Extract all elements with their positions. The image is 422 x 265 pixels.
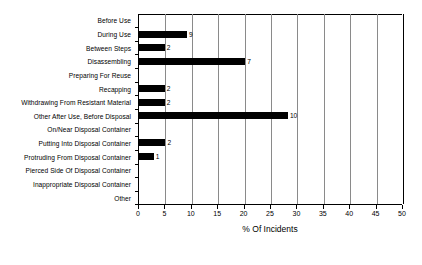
- category-label: Pierced Side Of Disposal Container: [26, 167, 131, 174]
- bar-row: 1: [139, 150, 402, 164]
- bar-value-label: 10: [290, 112, 297, 119]
- bar-row: 2: [139, 95, 402, 109]
- category-label: Withdrawing From Resistant Material: [21, 99, 131, 106]
- category-row: Inappropriate Disposal Container: [0, 178, 135, 192]
- bar-row: [139, 68, 402, 82]
- category-row: On/Near Disposal Container: [0, 123, 135, 137]
- x-tick-label: 45: [372, 210, 380, 218]
- x-tick-label: 0: [136, 210, 140, 218]
- bar: [139, 139, 165, 146]
- category-row: Recapping: [0, 82, 135, 96]
- category-label: Before Use: [98, 17, 132, 24]
- bar: [139, 31, 187, 38]
- category-row: Protruding From Disposal Container: [0, 150, 135, 164]
- bar-row: 9: [139, 28, 402, 42]
- category-label: Recapping: [99, 86, 131, 93]
- category-label: Other: [114, 195, 131, 202]
- x-tick: [376, 205, 377, 209]
- x-tick-label: 35: [319, 210, 327, 218]
- x-tick: [217, 205, 218, 209]
- x-tick: [402, 205, 403, 209]
- bar-value-label: 7: [247, 58, 251, 65]
- bar-row: 2: [139, 136, 402, 150]
- bar-row: [139, 123, 402, 137]
- bar-value-label: 2: [167, 139, 171, 146]
- bar-value-label: 1: [156, 153, 160, 160]
- bar-row: 2: [139, 41, 402, 55]
- category-label: Protruding From Disposal Container: [24, 154, 131, 161]
- x-tick: [349, 205, 350, 209]
- x-tick-label: 10: [187, 210, 195, 218]
- plot-area: 9 2 7 2 2 10 2 1: [138, 14, 402, 205]
- x-tick: [270, 205, 271, 209]
- x-tick-label: 25: [266, 210, 274, 218]
- x-tick: [323, 205, 324, 209]
- x-tick-label: 15: [213, 210, 221, 218]
- x-tick: [244, 205, 245, 209]
- category-label: During Use: [98, 31, 131, 38]
- bar-row: 10: [139, 109, 402, 123]
- bar-value-label: 2: [167, 44, 171, 51]
- category-row: Between Steps: [0, 41, 135, 55]
- category-row: Preparing For Reuse: [0, 69, 135, 83]
- bar: [139, 58, 245, 65]
- category-row: Other: [0, 191, 135, 205]
- bar-value-label: 2: [167, 85, 171, 92]
- category-label: Preparing For Reuse: [69, 72, 131, 79]
- category-label: Other After Use, Before Disposal: [34, 113, 131, 120]
- bar: [139, 112, 288, 119]
- gridline: [403, 14, 404, 204]
- x-tick-label: 20: [240, 210, 248, 218]
- category-row: Withdrawing From Resistant Material: [0, 96, 135, 110]
- x-tick-label: 50: [398, 210, 406, 218]
- category-row: Other After Use, Before Disposal: [0, 109, 135, 123]
- bar: [139, 153, 154, 160]
- x-tick: [138, 205, 139, 209]
- bar-series: 9 2 7 2 2 10 2 1: [139, 14, 402, 204]
- x-tick-label: 40: [345, 210, 353, 218]
- bar-row: [139, 191, 402, 205]
- x-tick-label: 30: [292, 210, 300, 218]
- category-row: Putting Into Disposal Container: [0, 137, 135, 151]
- bar-row: [139, 14, 402, 28]
- category-label: Putting Into Disposal Container: [39, 140, 131, 147]
- bar-row: 2: [139, 82, 402, 96]
- bar-value-label: 9: [189, 31, 193, 38]
- x-axis-title: % Of Incidents: [138, 224, 402, 234]
- category-row: During Use: [0, 28, 135, 42]
- category-label: Disassembling: [87, 58, 131, 65]
- category-label: Inappropriate Disposal Container: [33, 181, 131, 188]
- category-row: Pierced Side Of Disposal Container: [0, 164, 135, 178]
- bar-chart: Before Use During Use Between Steps Disa…: [0, 0, 422, 265]
- x-tick-label: 5: [162, 210, 166, 218]
- bar: [139, 99, 165, 106]
- x-tick: [164, 205, 165, 209]
- x-tick: [191, 205, 192, 209]
- x-tick: [296, 205, 297, 209]
- category-label: Between Steps: [86, 45, 131, 52]
- bar-row: 7: [139, 55, 402, 69]
- x-axis: 05101520253035404550: [138, 205, 402, 225]
- bar: [139, 85, 165, 92]
- category-axis: Before Use During Use Between Steps Disa…: [0, 14, 135, 205]
- bar-row: [139, 163, 402, 177]
- bar-row: [139, 177, 402, 191]
- category-row: Disassembling: [0, 55, 135, 69]
- bar-value-label: 2: [167, 99, 171, 106]
- category-label: On/Near Disposal Container: [47, 126, 131, 133]
- category-row: Before Use: [0, 14, 135, 28]
- bar: [139, 44, 165, 51]
